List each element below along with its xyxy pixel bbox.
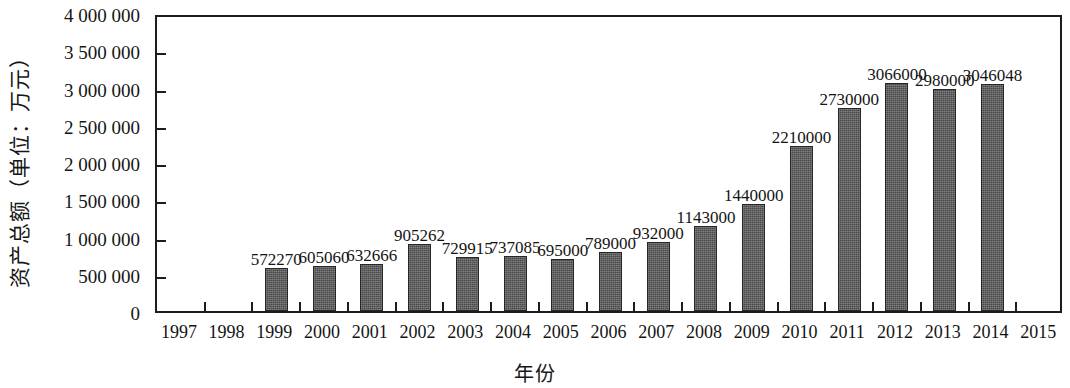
bar — [742, 204, 765, 311]
bar — [885, 83, 908, 311]
bar — [838, 108, 861, 311]
y-axis-tick-mark — [157, 165, 166, 167]
x-axis-tick-mark — [633, 302, 635, 311]
y-axis-tick-mark — [157, 128, 166, 130]
x-axis-tick-mark — [968, 302, 970, 311]
x-axis-tick-mark — [538, 302, 540, 311]
y-axis-tick-label: 4 000 000 — [30, 6, 140, 25]
x-axis-tick-mark — [1015, 302, 1017, 311]
bar — [647, 242, 670, 311]
y-axis-tick-label: 0 — [30, 304, 140, 323]
bar-value-label: 1143000 — [656, 209, 756, 226]
y-axis-tick-mark — [157, 91, 166, 93]
y-axis-tick-label: 2 000 000 — [30, 155, 140, 174]
y-axis-tick-mark — [157, 202, 166, 204]
y-axis-tick-label: 1 000 000 — [30, 230, 140, 249]
bar — [504, 256, 527, 311]
bar — [313, 266, 336, 311]
y-axis-tick-label: 3 500 000 — [30, 43, 140, 62]
x-axis-tick-mark — [824, 302, 826, 311]
x-axis-tick-mark — [872, 302, 874, 311]
x-axis-tick-mark — [347, 302, 349, 311]
y-axis-tick-label: 1 500 000 — [30, 192, 140, 211]
y-axis-tick-label: 3 000 000 — [30, 81, 140, 100]
x-axis-tick-mark — [681, 302, 683, 311]
y-axis-tick-labels: 4 000 0003 500 0003 000 0002 500 0002 00… — [28, 0, 140, 388]
bar — [933, 89, 956, 311]
y-axis-tick-mark — [157, 53, 166, 55]
bar-value-label: 2730000 — [799, 91, 899, 108]
bar-value-label: 932000 — [608, 225, 708, 242]
x-axis-tick-mark — [490, 302, 492, 311]
plot-area: 5722706050606326669052627299157370856950… — [155, 15, 1062, 313]
bar — [981, 84, 1004, 311]
x-axis-title: 年份 — [0, 358, 1070, 387]
x-axis-tick-mark — [586, 302, 588, 311]
x-axis-tick-mark — [395, 302, 397, 311]
x-axis-tick-mark — [299, 302, 301, 311]
bar — [694, 226, 717, 311]
x-axis-tick-label: 2015 — [1008, 322, 1068, 342]
y-axis-tick-mark — [157, 240, 166, 242]
bar-value-label: 632666 — [322, 247, 422, 264]
bar-value-label: 2210000 — [751, 129, 851, 146]
bar-value-label: 1440000 — [704, 187, 804, 204]
x-axis-tick-mark — [777, 302, 779, 311]
y-axis-tick-label: 2 500 000 — [30, 118, 140, 137]
bar — [551, 259, 574, 311]
bar — [360, 264, 383, 311]
y-axis-tick-label: 500 000 — [30, 267, 140, 286]
x-axis-tick-labels: 1997199819992000200120022003200420052006… — [155, 322, 1062, 348]
x-axis-tick-mark — [251, 302, 253, 311]
y-axis-tick-mark — [157, 277, 166, 279]
bar — [456, 257, 479, 311]
bar — [599, 252, 622, 311]
x-axis-tick-mark — [204, 302, 206, 311]
bar-chart: 资产总额（单位：万元） 4 000 0003 500 0003 000 0002… — [0, 0, 1070, 388]
bar-value-label: 3046048 — [942, 67, 1042, 84]
x-axis-tick-mark — [920, 302, 922, 311]
bar — [790, 146, 813, 311]
x-axis-tick-mark — [442, 302, 444, 311]
bar — [265, 268, 288, 311]
x-axis-tick-mark — [729, 302, 731, 311]
